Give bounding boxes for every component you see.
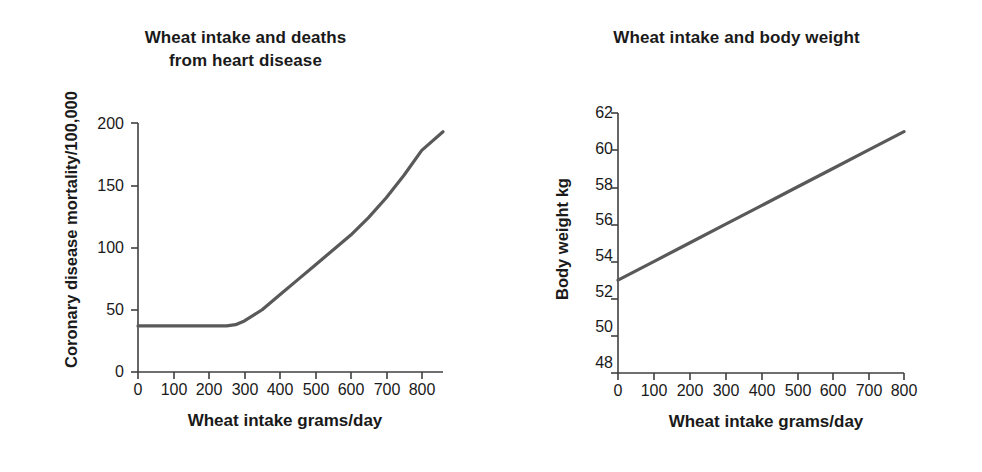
series-line-body-weight <box>618 132 904 281</box>
y-axis-ticks <box>131 123 138 372</box>
x-axis-ticks <box>138 372 422 379</box>
axes-coronary-disease <box>131 123 443 379</box>
series-line-coronary-disease <box>138 132 443 326</box>
plot-area-coronary-disease <box>0 0 491 472</box>
chart-panel-body-weight: Wheat intake and body weight Body weight… <box>491 0 982 472</box>
plot-area-body-weight <box>491 0 982 472</box>
figure-two-charts: Wheat intake and deaths from heart disea… <box>0 0 982 472</box>
x-axis-ticks <box>618 373 904 380</box>
chart-panel-coronary-disease: Wheat intake and deaths from heart disea… <box>0 0 491 472</box>
y-axis-ticks <box>611 113 618 373</box>
